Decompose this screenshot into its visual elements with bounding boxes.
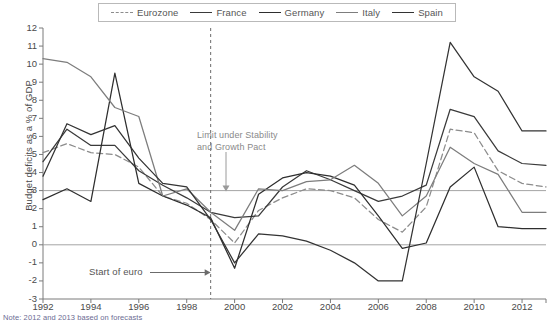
stability-pact-line2: and Growth Pact: [197, 142, 266, 152]
chart-footnote: Note: 2012 and 2013 based on forecasts: [3, 313, 142, 322]
stability-pact-annotation: Limit under Stability and Growth Pact: [197, 130, 278, 153]
series-line-france: [43, 109, 546, 217]
euro-start-annotation: Start of euro: [89, 266, 143, 277]
euro-start-arrow-head: [205, 269, 211, 275]
plot-area: [0, 0, 551, 323]
series-line-italy: [43, 59, 546, 231]
budget-deficit-chart: EurozoneFranceGermanyItalySpain Budget d…: [0, 0, 551, 323]
stability-pact-line1: Limit under Stability: [197, 130, 278, 140]
